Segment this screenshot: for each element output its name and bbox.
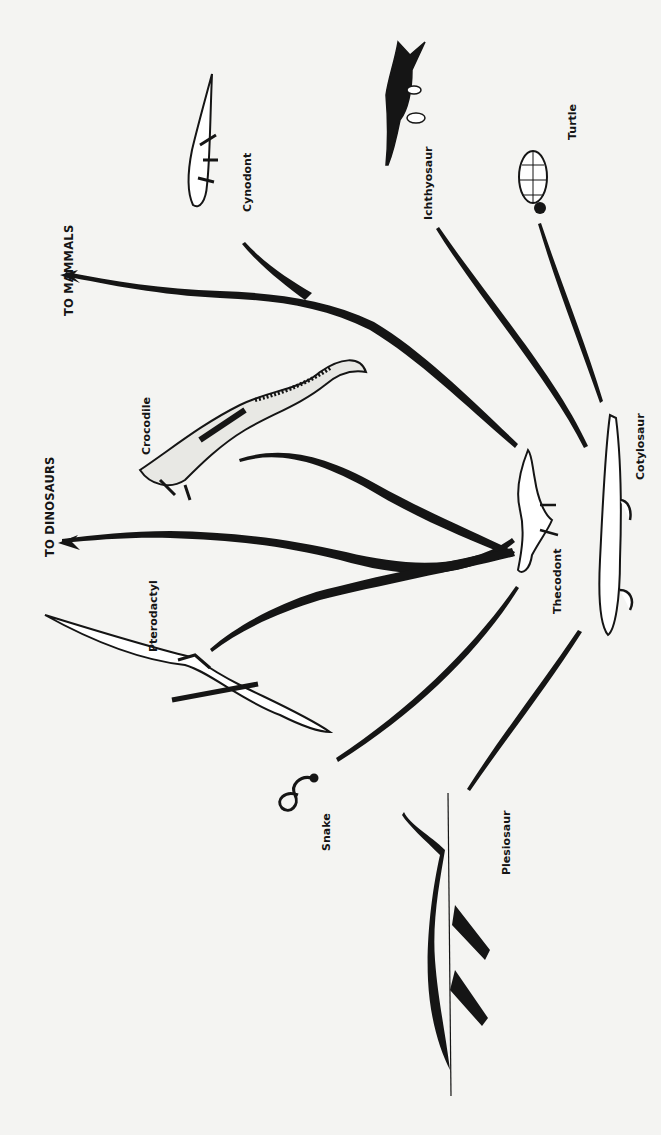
branch-turtle [538,223,603,403]
evolution-diagram: TO MAMMALS TO DINOSAURS Cynodont Ichthyo… [0,0,661,1135]
branch-to-mammals [64,272,518,448]
plesiosaur-label: Plesiosaur [500,811,513,875]
thecodont-label: Thecodont [551,549,564,614]
to-mammals-label: TO MAMMALS [62,225,76,316]
cotylosaur-icon [599,415,632,635]
crocodile-label: Crocodile [140,397,153,455]
ichthyosaur-icon [386,42,425,165]
branch-ichthyosaur [436,227,588,448]
crocodile-icon [140,360,366,500]
cotylosaur-label: Cotylosaur [634,413,647,480]
pterodactyl-label: Pterodactyl [147,580,160,652]
snake-icon [280,775,317,810]
cynodont-label: Cynodont [241,153,254,212]
branch-cynodont [242,242,312,300]
branch-snake [336,586,519,762]
cynodont-icon [188,74,218,206]
to-dinosaurs-label: TO DINOSAURS [43,456,57,557]
branch-plesiosaur [467,630,582,791]
turtle-label: Turtle [566,104,579,140]
pterodactyl-icon [45,615,330,732]
snake-label: Snake [320,813,333,851]
ichthyosaur-label: Ichthyosaur [422,147,435,221]
plesiosaur-icon [402,793,490,1096]
turtle-icon [519,151,547,214]
